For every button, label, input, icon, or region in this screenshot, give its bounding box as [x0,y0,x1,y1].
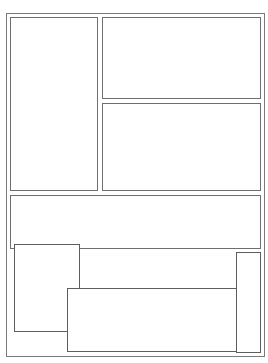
left-tall-panel [10,17,98,191]
bottom-right-tall-box [236,252,261,353]
middle-right-panel [102,103,261,191]
wide-panel [10,195,261,249]
bottom-center-box [67,288,237,352]
top-right-panel [102,17,261,99]
